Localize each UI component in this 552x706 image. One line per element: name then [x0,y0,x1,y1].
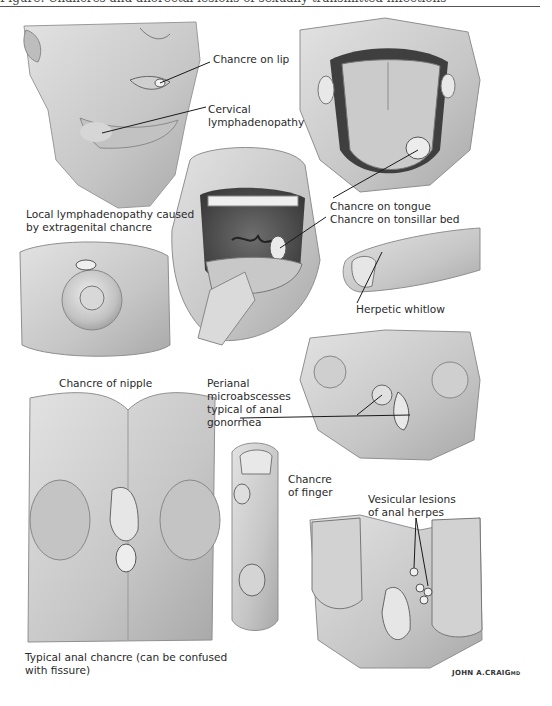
tonsillar-chancre [270,236,286,260]
signature-name: JOHN A.CRAIG [452,669,511,677]
perianal-gonorrhea-illustration [300,330,480,460]
herpes-vesicle [410,568,418,576]
nipple-illustration [20,242,170,356]
tongue-chancre [406,137,430,159]
label-chancre-of-finger: Chancre of finger [288,473,333,499]
anal-chancre-illustration [28,393,220,642]
herpes-vesicle [416,584,424,592]
thumb-illustration [343,228,480,292]
artist-signature: JOHN A.CRAIGMD [452,669,521,677]
open-mouth-illustration [172,148,320,346]
label-chancre-of-nipple: Chancre of nipple [59,377,152,390]
label-chancre-on-lip: Chancre on lip [213,53,289,66]
herpes-vesicle [424,588,432,596]
nipple-chancre [76,260,96,270]
anal-herpes-illustration [310,515,482,668]
label-typical-anal-chancre: Typical anal chancre (can be confused wi… [25,651,227,677]
label-perianal-microabscesses: Perianal microabscesses typical of anal … [207,377,291,429]
finger-chancre [239,564,265,596]
signature-suffix: MD [511,670,521,676]
anal-chancre-lesion [116,544,136,572]
label-local-lymphadenopathy: Local lymphadenopathy caused by extragen… [26,208,194,234]
label-chancre-on-tonsillar-bed: Chancre on tonsillar bed [330,213,460,226]
finger-illustration [232,443,278,631]
label-chancre-on-tongue: Chancre on tongue [330,200,431,213]
label-vesicular-lesions: Vesicular lesions of anal herpes [368,493,456,519]
herpes-vesicle [420,596,428,604]
label-cervical-lymphadenopathy: Cervical lymphadenopathy [208,103,304,129]
label-herpetic-whitlow: Herpetic whitlow [356,303,445,316]
